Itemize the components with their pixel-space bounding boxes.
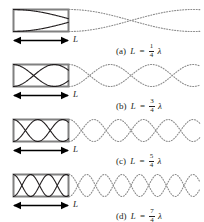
- panel-d-diagram: [0, 165, 204, 220]
- wave-envelope-dotted: [69, 65, 200, 87]
- panel-a-diagram: [0, 0, 204, 55]
- fraction-numerator-d: 7: [149, 208, 155, 215]
- wave-d: [13, 175, 200, 197]
- wave-envelope-solid: [13, 120, 69, 142]
- panel-b: L (b) L = 3 4 λ: [0, 55, 204, 110]
- wave-c: [13, 120, 200, 142]
- panel-b-diagram: [0, 55, 204, 110]
- panel-a: L (a) L = 1 4 λ: [0, 0, 204, 55]
- standing-wave-figure: L (a) L = 1 4 λ L (b): [0, 0, 204, 222]
- wave-envelope-dotted: [69, 65, 200, 87]
- caption-var-d: L: [129, 211, 136, 221]
- tube-c: [14, 120, 69, 142]
- length-arrow-d: [13, 202, 69, 209]
- panel-c-diagram: [0, 110, 204, 165]
- fraction-denominator-d: 4: [149, 217, 155, 222]
- length-arrow-a: [13, 37, 69, 44]
- wave-b: [13, 65, 200, 87]
- caption-lambda-d: λ: [157, 211, 162, 221]
- length-arrow-c: [13, 147, 69, 154]
- length-label-d: L: [73, 200, 78, 209]
- wave-envelope-solid: [13, 65, 69, 87]
- caption-fraction-d: 7 4: [149, 208, 155, 222]
- wave-envelope-solid: [13, 175, 69, 197]
- wave-envelope-dotted: [69, 120, 200, 142]
- tube-a: [14, 10, 69, 32]
- wave-envelope-dotted: [69, 10, 200, 32]
- wave-envelope-solid: [13, 65, 69, 87]
- wave-envelope-solid: [13, 120, 69, 142]
- length-arrow-b: [13, 92, 69, 99]
- panel-d: L (d) L = 7 4 λ: [0, 165, 204, 220]
- wave-envelope-solid: [13, 22, 69, 31]
- fraction-numerator-b: 3: [149, 98, 155, 105]
- wave-envelope-solid: [13, 10, 69, 19]
- tube-b: [14, 65, 69, 87]
- wave-envelope-dotted: [69, 10, 200, 32]
- length-label-b: L: [73, 90, 78, 99]
- caption-tag-d: (d): [116, 211, 127, 221]
- length-label-a: L: [73, 35, 78, 44]
- caption-equals-d: =: [138, 211, 147, 221]
- caption-d: (d) L = 7 4 λ: [116, 208, 162, 222]
- length-label-c: L: [73, 145, 78, 154]
- wave-a: [13, 10, 200, 32]
- fraction-numerator-a: 1: [149, 43, 155, 50]
- fraction-numerator-c: 5: [149, 153, 155, 160]
- panel-c: L (c) L = 5 4 λ: [0, 110, 204, 165]
